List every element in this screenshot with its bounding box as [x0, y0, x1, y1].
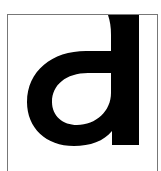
letter-a-glyph [8, 15, 158, 171]
glyph-frame [7, 14, 158, 171]
